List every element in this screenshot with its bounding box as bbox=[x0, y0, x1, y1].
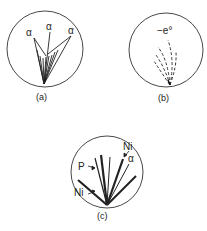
alpha-label-2: α bbox=[46, 21, 52, 32]
electron-label: −e° bbox=[157, 25, 172, 36]
ni-label-bottom: Ni bbox=[74, 187, 83, 198]
p-label: P bbox=[78, 161, 85, 172]
convergence-point-b bbox=[168, 80, 170, 85]
alpha-label-c: α bbox=[128, 153, 134, 164]
alpha-label-3: α bbox=[68, 25, 74, 36]
caption-a: (a) bbox=[36, 92, 47, 102]
panel-b: −e° (b) bbox=[129, 13, 203, 103]
caption-b: (b) bbox=[158, 93, 169, 103]
ni-label-top: Ni bbox=[123, 141, 132, 152]
electron-dashed-tracks bbox=[154, 40, 176, 85]
panel-c: P Ni α Ni (c) bbox=[71, 136, 143, 221]
emulsion-tracks-diagram: α α α (a) −e° (b) bbox=[0, 0, 207, 231]
panel-a: α α α (a) bbox=[7, 11, 83, 102]
alpha-label-1: α bbox=[26, 27, 32, 38]
caption-c: (c) bbox=[97, 211, 108, 221]
alpha-star-tracks bbox=[34, 32, 71, 84]
